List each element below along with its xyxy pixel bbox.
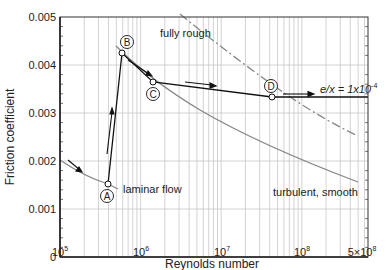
roughness-annotation: e/x = 1x10-4 [320, 82, 377, 95]
point-a-label: A [104, 191, 111, 202]
x-tick-1e5: 105 [52, 245, 68, 258]
plot-frame [60, 17, 368, 257]
x-tick-1e6: 106 [133, 245, 149, 258]
x-axis-title: Reynolds number [165, 257, 259, 270]
roughness-exponent: -4 [371, 82, 377, 89]
x-tick-1e8: 108 [294, 245, 310, 258]
x-tick-exp: 7 [226, 245, 230, 252]
flow-direction-arrows [68, 60, 314, 172]
x-tick-exp: 6 [145, 245, 149, 252]
x-tick-exp: 8 [306, 245, 310, 252]
turbulent-smooth-curve [116, 46, 358, 182]
y-tick-labels: 0 0.001 0.002 0.003 0.004 0.005 [28, 11, 56, 263]
y-tick-0003: 0.003 [28, 107, 56, 119]
vertical-gridlines [84, 17, 364, 257]
x-tick-exp: 8 [372, 245, 376, 252]
roughness-main: e/x = 1x10 [320, 83, 372, 95]
x-tick-base: 10 [294, 246, 306, 258]
y-minor-ticks [60, 27, 368, 248]
turbulent-smooth-annotation: turbulent, smooth [273, 186, 358, 198]
y-axis-title: Friction coefficient [3, 88, 17, 185]
laminar-flow-annotation: laminar flow [123, 183, 182, 195]
x-tick-5e8: 5×108 [348, 245, 377, 258]
point-d-label: D [267, 81, 274, 92]
friction-coefficient-chart: A B C D laminar flow turbulent, smooth f… [0, 0, 390, 270]
x-tick-base: 10 [52, 246, 64, 258]
y-tick-0001: 0.001 [28, 203, 56, 215]
y-tick-0004: 0.004 [28, 59, 56, 71]
x-tick-base: 10 [133, 246, 145, 258]
fully-rough-annotation: fully rough [160, 27, 211, 39]
state-points [105, 50, 275, 187]
x-tick-base: 5×10 [348, 246, 373, 258]
point-b-label: B [124, 37, 131, 48]
y-tick-0005: 0.005 [28, 11, 56, 23]
x-tick-exp: 5 [64, 245, 68, 252]
y-tick-0002: 0.002 [28, 155, 56, 167]
point-c-label: C [149, 89, 156, 100]
